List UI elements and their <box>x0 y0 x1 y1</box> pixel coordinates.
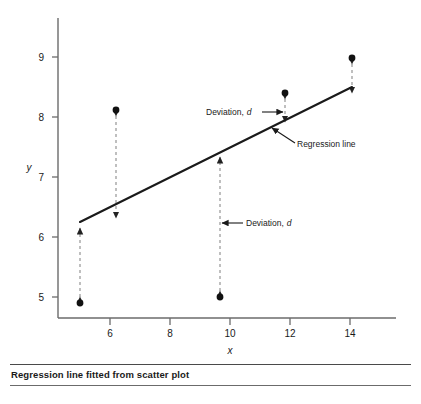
y-tick-label-7: 7 <box>38 172 44 183</box>
x-tick-label-14: 14 <box>344 328 356 339</box>
caption-block: Regression line fitted from scatter plot <box>10 364 411 386</box>
annotation-deviation-lower: Deviation,d <box>222 218 292 228</box>
x-axis-ticks: 6 8 10 12 14 <box>107 318 356 339</box>
caption-rule-bottom <box>10 385 411 386</box>
y-axis-ticks: 9 8 7 6 5 <box>38 52 58 303</box>
data-points-group <box>77 55 356 307</box>
regression-line-label: Regression line <box>297 139 356 149</box>
data-point <box>77 300 84 307</box>
deviation-lower-label: Deviation,d <box>246 218 292 228</box>
y-tick-label-5: 5 <box>38 292 44 303</box>
axes-group <box>58 18 396 318</box>
x-tick-label-8: 8 <box>167 328 173 339</box>
data-point <box>217 294 224 301</box>
data-point <box>113 107 120 114</box>
figure-container: 9 8 7 6 5 6 8 10 12 14 y x <box>0 0 421 404</box>
scatter-plot-chart: 9 8 7 6 5 6 8 10 12 14 y x <box>0 0 421 360</box>
regression-line-leader <box>272 128 295 143</box>
y-tick-label-9: 9 <box>38 52 44 63</box>
caption-text: Regression line fitted from scatter plot <box>10 365 411 385</box>
x-axis-label: x <box>227 345 234 356</box>
y-axis-label: y <box>26 162 33 173</box>
y-tick-label-8: 8 <box>38 112 44 123</box>
data-point <box>349 55 356 62</box>
annotation-regression-line: Regression line <box>272 128 356 149</box>
x-tick-label-12: 12 <box>284 328 296 339</box>
x-tick-label-10: 10 <box>224 328 236 339</box>
y-tick-label-6: 6 <box>38 232 44 243</box>
x-tick-label-6: 6 <box>107 328 113 339</box>
deviation-lines-group <box>80 64 352 297</box>
data-point <box>282 90 289 97</box>
deviation-upper-label: Deviation,d <box>206 107 252 117</box>
annotation-deviation-upper: Deviation,d <box>206 107 283 117</box>
